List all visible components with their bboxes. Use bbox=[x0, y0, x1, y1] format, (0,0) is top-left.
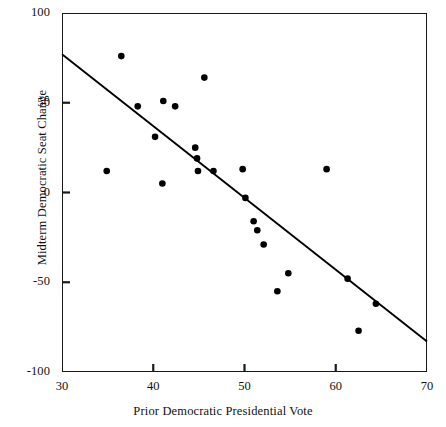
y-tick-label: 100 bbox=[6, 6, 50, 19]
x-tick-label: 70 bbox=[407, 380, 446, 393]
x-tick-label: 30 bbox=[42, 380, 82, 393]
chart-page: 100500-50-100 3040506070 Midterm Democra… bbox=[0, 0, 446, 427]
y-axis-title: Midterm Democratic Seat Change bbox=[35, 68, 50, 288]
plot-frame bbox=[62, 13, 427, 372]
x-axis-title: Prior Democratic Presidential Vote bbox=[0, 404, 446, 419]
x-tick-label: 50 bbox=[225, 380, 265, 393]
y-tick-label: -100 bbox=[6, 365, 50, 378]
x-tick-label: 40 bbox=[133, 380, 173, 393]
x-tick-label: 60 bbox=[316, 380, 356, 393]
